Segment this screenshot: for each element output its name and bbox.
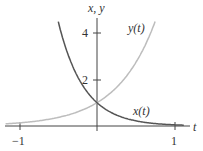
y-axis-label: x, y [87, 1, 105, 15]
curve-x [58, 22, 184, 126]
legend-y: y(t) [127, 21, 145, 35]
legend-x: x(t) [132, 104, 150, 118]
t-axis-label: t [193, 120, 197, 134]
chart: x, y t 4 2 −1 1 y(t) x(t) [0, 0, 203, 151]
tick-label-minus1: −1 [12, 134, 25, 148]
tick-label-4: 4 [82, 26, 88, 40]
tick-label-2: 2 [82, 73, 88, 87]
tick-label-1: 1 [171, 134, 177, 148]
